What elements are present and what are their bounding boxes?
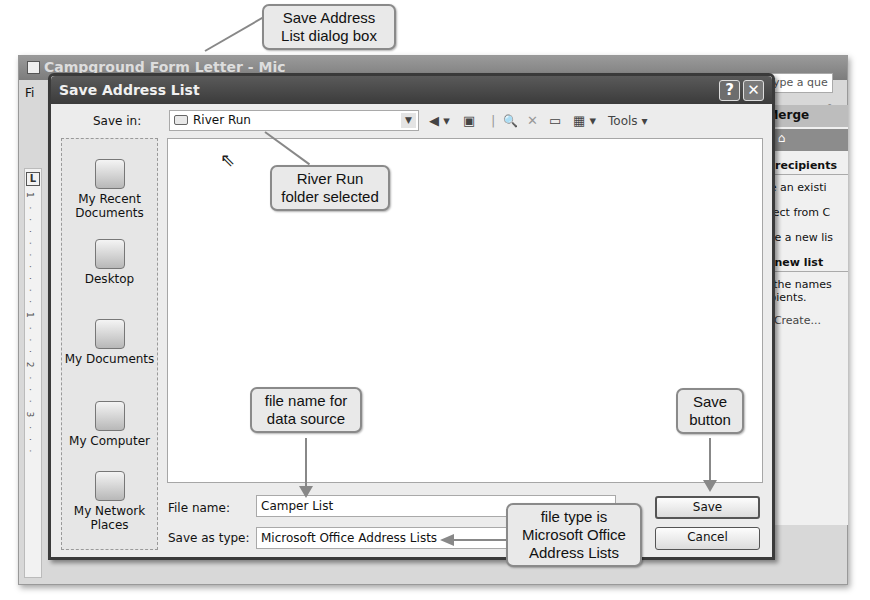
folder-icon [174,115,188,125]
recent-documents-icon [95,159,125,189]
place-my-computer[interactable]: My Computer [62,401,157,448]
dialog-title: Save Address List [59,82,200,98]
menu-file[interactable]: Fi [25,86,34,100]
my-computer-icon [95,401,125,431]
delete-button[interactable]: ✕ [527,111,538,131]
help-button[interactable]: ? [719,80,740,101]
callout-arrowhead [440,534,454,546]
create-new-folder-button[interactable]: ▭ [549,111,561,131]
place-label: Desktop [85,272,135,286]
callout-file-type: file type is Microsoft Office Address Li… [506,503,642,567]
callout-arrow [709,438,711,484]
tools-menu-button[interactable]: Tools ▾ [608,111,647,131]
back-button[interactable]: ◀ ▾ [429,111,450,131]
network-places-icon [95,471,125,501]
callout-file-name: file name for data source [250,387,362,433]
place-my-recent-documents[interactable]: My Recent Documents [62,159,157,220]
desktop-icon [95,239,125,269]
file-name-label: File name: [168,501,230,515]
word-app-icon [27,61,40,74]
create-link-label[interactable]: Create... [774,314,821,327]
ruler-marks: 1 · · · · · · · · · 1 · · · 2 · · · 3 · … [25,192,35,455]
callout-save-button: Save button [676,388,744,434]
place-label: My Network Places [74,504,145,532]
toolbar-separator: | [491,111,495,131]
cancel-button[interactable]: Cancel [655,527,760,550]
tab-selector[interactable]: L [26,172,40,186]
save-in-dropdown[interactable]: River Run ▼ [169,110,419,131]
callout-folder-selected: River Run folder selected [270,165,390,211]
callout-arrowhead [299,486,313,498]
save-as-type-label: Save as type: [168,531,250,545]
chevron-down-icon[interactable]: ▼ [401,113,416,128]
place-desktop[interactable]: Desktop [62,239,157,286]
callout-dialog-box: Save Address List dialog box [262,4,396,50]
vertical-ruler: L 1 · · · · · · · · · 1 · · · 2 · · · 3 … [24,168,42,578]
place-my-network-places[interactable]: My Network Places [62,471,157,532]
mouse-pointer-icon: ⇖ [220,149,235,170]
save-button[interactable]: Save [655,496,760,519]
callout-arrow [305,438,307,490]
save-in-label: Save in: [93,114,141,128]
dialog-title-bar: Save Address List ? ✕ [51,76,772,104]
my-documents-icon [95,319,125,349]
callout-arrow [450,539,508,541]
place-label: My Documents [65,352,155,366]
places-bar: My Recent Documents Desktop My Documents… [61,138,158,550]
save-address-list-dialog: Save Address List ? ✕ Save in: River Run… [48,73,775,560]
place-label: My Computer [69,434,150,448]
views-button[interactable]: ▦ ▾ [573,111,596,131]
place-my-documents[interactable]: My Documents [62,319,157,366]
up-one-level-button[interactable]: ▣ [463,111,475,131]
place-label: My Recent Documents [75,192,143,220]
search-web-button[interactable]: 🔍 [503,111,518,131]
save-in-value: River Run [193,113,251,127]
callout-arrowhead [703,480,717,492]
close-button[interactable]: ✕ [743,80,764,101]
